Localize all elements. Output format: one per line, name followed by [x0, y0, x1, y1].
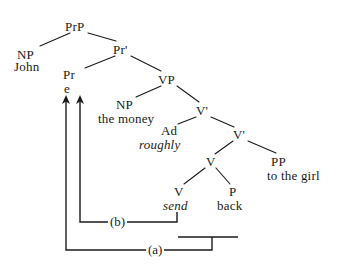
branch-v1-p: [216, 168, 230, 184]
terminal-to-the-girl: to the girl: [267, 169, 320, 182]
node-pr-bar: Pr': [113, 43, 128, 56]
movement-label-a: (a): [146, 243, 164, 256]
movement-label-b: (b): [108, 215, 127, 228]
branch-vbar2-v1: [215, 141, 233, 154]
branch-prbar-pr: [85, 56, 115, 68]
branch-vbar1-vbar2: [211, 117, 234, 127]
node-p: P: [229, 185, 236, 198]
tree-lines-svg: [0, 0, 357, 269]
terminal-send: send: [163, 199, 188, 212]
branch-v1-v2: [184, 168, 205, 184]
branch-prp-prbar: [88, 33, 116, 41]
terminal-back: back: [217, 199, 242, 212]
node-pp: PP: [271, 155, 286, 168]
node-v-complex: V: [206, 155, 216, 168]
syntax-tree-diagram: PrP NP Pr' Pr VP NP V' Ad V' V PP V P Jo…: [0, 0, 357, 269]
branch-prp-np: [40, 33, 70, 46]
node-v-bar-lower: V': [233, 128, 245, 141]
node-np-object: NP: [116, 98, 133, 111]
branch-vbar1-ad: [178, 117, 196, 124]
terminal-the-money: the money: [98, 112, 154, 125]
terminal-roughly: roughly: [139, 138, 180, 151]
branch-prbar-vp: [131, 56, 161, 71]
branch-vp-vbar1: [177, 86, 199, 102]
node-v-bar-upper: V': [196, 104, 208, 117]
branch-vbar2-pp: [248, 141, 276, 153]
branch-vp-np: [136, 86, 161, 97]
node-prp: PrP: [65, 20, 84, 33]
tree-branches: [40, 33, 276, 184]
terminal-empty-pr: e: [64, 82, 70, 95]
terminal-john: John: [14, 60, 39, 73]
node-pr: Pr: [63, 68, 75, 81]
node-vp: VP: [158, 73, 175, 86]
node-ad: Ad: [161, 124, 177, 137]
node-v-head: V: [174, 185, 184, 198]
